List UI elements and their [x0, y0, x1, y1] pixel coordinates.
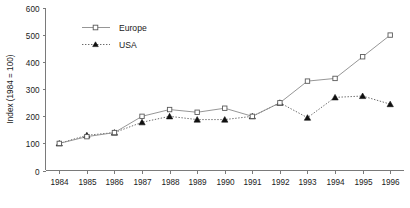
y-axis-title: Index (1984 = 100) [6, 54, 15, 123]
data-point-europe [57, 141, 61, 145]
data-point-usa [166, 113, 172, 119]
x-tick-label: 1986 [105, 178, 124, 187]
line-chart: 0100200300400500600 19841985198619871988… [0, 0, 410, 208]
y-axis-tick-labels: 0100200300400500600 [26, 5, 40, 177]
data-point-usa [332, 94, 338, 100]
y-tick-label: 0 [35, 168, 40, 177]
legend-label-usa: USA [119, 40, 137, 50]
x-axis-tick-labels: 1984198519861987198819891990199119921993… [50, 178, 400, 187]
data-point-europe [250, 114, 254, 118]
chart-legend: Europe USA [82, 23, 147, 50]
x-tick-label: 1985 [78, 178, 97, 187]
y-tick-label: 200 [26, 113, 40, 122]
data-point-europe [223, 106, 227, 110]
data-point-europe [112, 130, 116, 134]
y-tick-label: 300 [26, 86, 40, 95]
x-tick-label: 1996 [381, 178, 400, 187]
series-line-europe [59, 35, 390, 143]
x-tick-label: 1988 [161, 178, 180, 187]
x-tick-label: 1991 [243, 178, 262, 187]
data-point-usa [387, 101, 393, 107]
legend-marker-europe [93, 25, 98, 30]
x-tick-label: 1989 [188, 178, 207, 187]
x-axis-ticks [60, 171, 391, 175]
data-point-europe [140, 114, 144, 118]
series-markers-europe [57, 33, 392, 146]
y-tick-label: 600 [26, 5, 40, 14]
data-point-europe [388, 33, 392, 37]
x-tick-label: 1984 [50, 178, 69, 187]
x-tick-label: 1992 [271, 178, 290, 187]
data-point-europe [360, 55, 364, 59]
legend-label-europe: Europe [119, 23, 147, 33]
data-point-europe [278, 101, 282, 105]
x-tick-label: 1990 [216, 178, 235, 187]
x-tick-label: 1993 [298, 178, 317, 187]
y-tick-label: 500 [26, 32, 40, 41]
x-tick-label: 1995 [354, 178, 373, 187]
data-point-europe [85, 134, 89, 138]
data-point-europe [195, 110, 199, 114]
chart-canvas: 0100200300400500600 19841985198619871988… [0, 0, 410, 208]
x-tick-label: 1994 [326, 178, 345, 187]
data-point-europe [167, 107, 171, 111]
data-point-europe [333, 76, 337, 80]
y-tick-label: 400 [26, 59, 40, 68]
data-point-europe [305, 79, 309, 83]
series-markers-usa [56, 93, 393, 146]
y-tick-label: 100 [26, 140, 40, 149]
x-tick-label: 1987 [133, 178, 152, 187]
